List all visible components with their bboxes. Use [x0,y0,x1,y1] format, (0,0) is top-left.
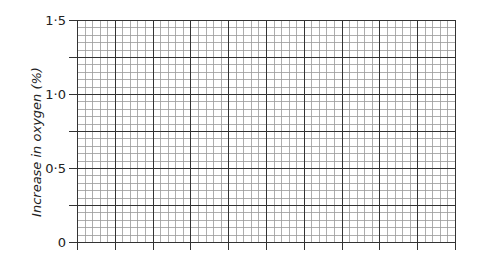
y-tick-label-0-5: 0·5 [45,161,66,176]
y-tick-label-1-0: 1·0 [45,87,66,102]
axis-ticks [69,21,456,251]
chart: 1·5 1·0 0·5 0 Increase in oxygen (%) [0,0,488,264]
y-tick-label-1-5: 1·5 [45,13,66,28]
y-tick-label-0: 0 [58,235,66,250]
graph-paper-grid: 1·5 1·0 0·5 0 Increase in oxygen (%) [0,0,488,264]
y-tick-labels: 1·5 1·0 0·5 0 [45,13,66,250]
major-grid [77,20,456,243]
y-axis-label: Increase in oxygen (%) [29,67,44,217]
